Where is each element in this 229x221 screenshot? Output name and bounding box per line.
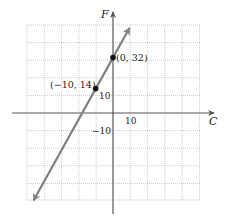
x-axis-label: C [209, 115, 218, 128]
chart-canvas: F C 10 10 −10 (0, 32) (−10, 14) [0, 0, 229, 221]
y-tick-label-neg: −10 [92, 126, 111, 136]
point-0-32 [110, 55, 116, 61]
point-label-0-32: (0, 32) [116, 52, 148, 63]
y-tick-label-pos: 10 [99, 91, 111, 101]
x-tick-label: 10 [125, 116, 137, 126]
y-axis-label: F [100, 8, 109, 21]
point-label-neg10-14: (−10, 14) [50, 79, 96, 90]
